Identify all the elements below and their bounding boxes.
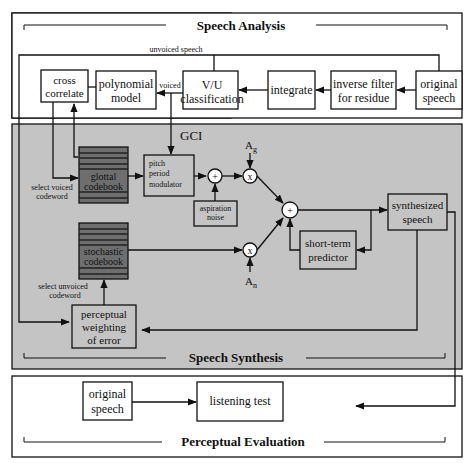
speech-coder-diagram: Speech Analysis Speech Synthesis Percept…: [0, 0, 470, 463]
analysis-title: Speech Analysis: [197, 18, 286, 33]
block-vu-classification[interactable]: V/U classification: [180, 71, 243, 109]
svg-text:weighting: weighting: [82, 321, 126, 333]
svg-text:x: x: [248, 245, 253, 256]
svg-text:perceptual: perceptual: [81, 308, 127, 320]
svg-text:period: period: [149, 169, 169, 178]
block-inverse-filter[interactable]: inverse filter for residue: [331, 71, 396, 109]
svg-text:modulator: modulator: [149, 180, 182, 189]
label-select-voiced: select voiced: [31, 183, 73, 192]
label-voiced: voiced: [159, 81, 180, 90]
svg-text:original: original: [420, 77, 458, 91]
svg-text:classification: classification: [180, 92, 243, 106]
svg-text:integrate: integrate: [271, 83, 313, 97]
block-original-speech-eval[interactable]: original speech: [83, 382, 132, 420]
block-glottal-codebook[interactable]: glottal codebook: [79, 147, 128, 203]
svg-text:original: original: [89, 387, 127, 401]
block-listening-test[interactable]: listening test: [197, 382, 283, 421]
label-gci: GCI: [180, 128, 202, 143]
block-pitch-period-modulator[interactable]: pitch period modulator: [144, 155, 194, 196]
label-select-unvoiced: select unvoiced: [38, 282, 88, 291]
svg-text:model: model: [111, 91, 142, 105]
synthesis-title: Speech Synthesis: [189, 350, 283, 365]
block-integrate[interactable]: integrate: [268, 71, 315, 109]
svg-text:synthesized: synthesized: [392, 199, 444, 211]
svg-text:pitch: pitch: [149, 159, 165, 168]
svg-text:speech: speech: [423, 91, 456, 105]
block-short-term-predictor[interactable]: short-term predictor: [300, 231, 356, 269]
svg-text:g: g: [253, 145, 257, 154]
svg-text:predictor: predictor: [308, 251, 348, 263]
svg-text:short-term: short-term: [305, 237, 351, 249]
evaluation-title: Perceptual Evaluation: [181, 434, 305, 449]
svg-text:speech: speech: [91, 402, 124, 416]
svg-text:inverse filter: inverse filter: [333, 77, 394, 91]
svg-text:for residue: for residue: [338, 91, 390, 105]
block-perceptual-weighting[interactable]: perceptual weighting of error: [72, 305, 136, 348]
block-stochastic-codebook[interactable]: stochastic codebook: [79, 223, 128, 279]
svg-text:listening test: listening test: [210, 394, 272, 408]
svg-text:speech: speech: [403, 213, 433, 225]
block-polynomial-model[interactable]: polynomial model: [96, 71, 156, 109]
label-gain-noise: A: [245, 275, 253, 287]
svg-text:aspiration: aspiration: [200, 204, 232, 213]
label-gain-glottal: A: [245, 139, 253, 151]
block-cross-correlate[interactable]: cross correlate: [41, 70, 88, 102]
svg-text:codebook: codebook: [84, 256, 123, 267]
svg-text:codeword: codeword: [36, 192, 68, 201]
label-unvoiced-speech: unvoiced speech: [149, 45, 202, 54]
svg-text:noise: noise: [207, 213, 224, 222]
svg-text:correlate: correlate: [45, 87, 84, 99]
svg-text:+: +: [287, 205, 293, 216]
svg-text:+: +: [212, 171, 218, 182]
block-original-speech-analysis[interactable]: original speech: [416, 71, 462, 109]
svg-text:V/U: V/U: [202, 78, 223, 92]
svg-text:n: n: [253, 281, 257, 290]
svg-text:codeword: codeword: [49, 291, 81, 300]
svg-text:codebook: codebook: [84, 181, 123, 192]
block-aspiration-noise[interactable]: aspiration noise: [194, 201, 237, 226]
svg-text:polynomial: polynomial: [99, 77, 154, 91]
svg-text:cross: cross: [53, 74, 76, 86]
svg-text:x: x: [248, 171, 253, 182]
svg-text:of error: of error: [87, 334, 121, 346]
block-synthesized-speech[interactable]: synthesized speech: [388, 194, 447, 230]
